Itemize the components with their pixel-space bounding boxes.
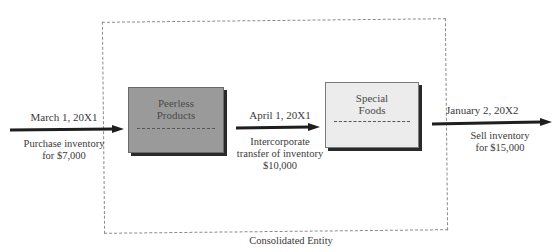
sale-date: January 2, 20X2 xyxy=(446,104,546,116)
arrow-purchase xyxy=(10,125,124,133)
entity-name-line: Foods xyxy=(326,104,418,116)
purchase-description: Purchase inventory for $7,000 xyxy=(8,138,120,162)
peerless-products-box: Peerless Products xyxy=(128,87,224,153)
description-line: for $7,000 xyxy=(8,150,120,162)
flow-arrows xyxy=(0,0,559,252)
description-line: Intercorporate xyxy=(226,136,334,148)
special-foods-box: Special Foods xyxy=(325,82,419,148)
entity-name-line: Special xyxy=(326,92,418,104)
arrow-sale xyxy=(432,118,552,126)
entity-name-line: Products xyxy=(129,109,223,121)
peerless-products-label: Peerless Products xyxy=(129,97,223,121)
description-line: $10,000 xyxy=(226,160,334,172)
sale-description: Sell inventory for $15,000 xyxy=(450,130,550,154)
description-line: Sell inventory xyxy=(450,130,550,142)
arrow-transfer xyxy=(236,123,320,131)
transfer-date: April 1, 20X1 xyxy=(230,109,330,121)
description-line: Purchase inventory xyxy=(8,138,120,150)
transfer-description: Intercorporate transfer of inventory $10… xyxy=(226,136,334,172)
special-foods-label: Special Foods xyxy=(326,92,418,116)
description-line: for $15,000 xyxy=(450,142,550,154)
box-divider xyxy=(334,121,410,122)
purchase-date: March 1, 20X1 xyxy=(8,111,120,123)
description-line: transfer of inventory xyxy=(226,148,334,160)
entity-name-line: Peerless xyxy=(129,97,223,109)
box-divider xyxy=(137,128,215,129)
consolidated-entity-caption: Consolidated Entity xyxy=(236,235,346,246)
